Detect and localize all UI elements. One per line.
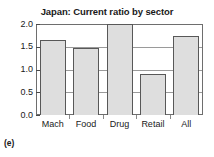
bar-series: [36, 24, 203, 115]
chart-title: Japan: Current ratio by sector: [0, 6, 214, 17]
figure-caption: (e): [4, 138, 14, 148]
y-axis-tick-mark: [36, 92, 40, 93]
bar: [40, 40, 66, 115]
x-axis-tick-label: All: [156, 119, 214, 130]
bar: [107, 24, 133, 115]
chart-figure: Japan: Current ratio by sector 0.00.51.0…: [0, 0, 214, 157]
y-axis-tick-label: 1.0: [11, 65, 33, 74]
y-axis-tick-label: 1.5: [11, 42, 33, 51]
y-axis-tick-mark: [36, 24, 40, 25]
bar: [140, 74, 166, 115]
y-axis-tick-mark: [36, 47, 40, 48]
x-axis-tick-labels: MachFoodDrugRetailAll: [36, 119, 203, 132]
bar: [73, 48, 99, 115]
y-axis-tick-label: 2.0: [11, 20, 33, 29]
bar: [173, 36, 199, 115]
y-axis-tick-labels: 0.00.51.01.52.0: [8, 24, 33, 115]
y-axis-tick-mark: [36, 115, 40, 116]
y-axis-tick-mark: [36, 70, 40, 71]
y-axis-tick-label: 0.5: [11, 88, 33, 97]
